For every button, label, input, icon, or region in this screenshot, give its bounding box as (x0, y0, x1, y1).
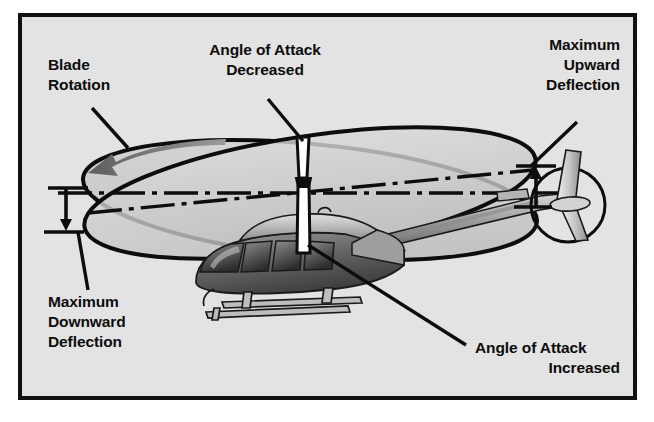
rotor-mast (296, 137, 311, 253)
max-upward-line-2: Upward (564, 56, 620, 73)
blade-rotation-line-2: Rotation (48, 76, 110, 93)
aoa-increased-line-1: Angle of Attack (475, 339, 587, 356)
blade-rotation-line-1: Blade (48, 56, 90, 73)
maximum-downward-deflection-label: Maximum Downward Deflection (48, 293, 126, 350)
rotor-deflection-figure: Blade Rotation Angle of Attack Decreased… (0, 0, 654, 422)
diagram-canvas: Blade Rotation Angle of Attack Decreased… (0, 0, 654, 422)
max-downward-line-3: Deflection (48, 333, 122, 350)
skid-strut-rear (322, 288, 333, 303)
rotor-hub (296, 178, 311, 187)
skid-strut-far-front (212, 308, 220, 320)
mast-lower (297, 186, 310, 253)
max-upward-line-1: Maximum (549, 36, 620, 53)
max-downward-line-2: Downward (48, 313, 126, 330)
skid-strut-front (242, 292, 252, 308)
aoa-increased-line-2: Increased (549, 359, 620, 376)
max-upward-line-3: Deflection (546, 76, 620, 93)
mast-upper (297, 137, 309, 178)
aoa-decreased-line-1: Angle of Attack (209, 41, 321, 58)
aoa-decreased-line-2: Decreased (226, 61, 304, 78)
max-downward-line-1: Maximum (48, 293, 119, 310)
cabin-window-front (241, 241, 272, 272)
